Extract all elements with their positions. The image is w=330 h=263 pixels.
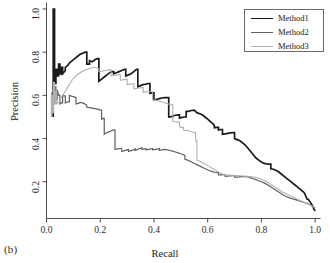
chart-legend: Method1Method2Method3 [244, 9, 324, 52]
series-line-method3 [51, 67, 315, 208]
x-tick-label: 0.4 [148, 225, 160, 235]
y-tick-label-wrap: 0.8 [6, 46, 36, 58]
panel-label: (b) [4, 243, 17, 255]
legend-line-icon [251, 46, 273, 47]
y-tick-label: 0.8 [31, 51, 41, 81]
legend-line-icon [251, 32, 273, 33]
legend-label: Method2 [278, 27, 309, 37]
x-tick-label: 0.8 [255, 225, 267, 235]
series-line-method2 [52, 87, 315, 208]
legend-item: Method3 [245, 40, 323, 52]
legend-label: Method1 [278, 13, 309, 23]
y-tick-label-wrap: 1.0 [6, 3, 36, 15]
x-axis-title: Recall [0, 248, 330, 259]
x-tick-label: 0.6 [202, 225, 214, 235]
y-tick-label: 0.4 [31, 138, 41, 168]
y-axis-title: Precision [9, 62, 20, 142]
legend-label: Method3 [278, 41, 309, 51]
y-tick-label: 0.6 [31, 94, 41, 124]
y-tick-label-wrap: 0.2 [6, 176, 36, 188]
legend-item: Method1 [245, 12, 323, 24]
y-tick-label: 0.2 [31, 181, 41, 211]
y-tick-label: 1.0 [31, 8, 41, 38]
figure-panel-b: 0.00.20.40.60.81.0 0.20.40.60.81.0 Recal… [0, 0, 330, 263]
x-tick-label: 0.0 [41, 225, 53, 235]
x-tick-label: 0.2 [94, 225, 106, 235]
x-tick-label: 1.0 [309, 225, 321, 235]
legend-item: Method2 [245, 26, 323, 38]
legend-line-icon [251, 18, 273, 19]
